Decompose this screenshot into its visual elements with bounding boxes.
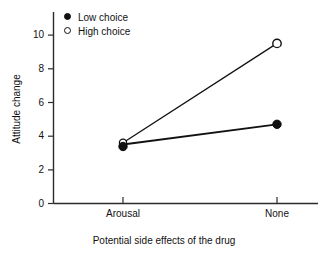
attitude-change-line-chart: 0 2 4 6 8 10 Arousal None Attitude chang… xyxy=(0,0,328,257)
y-tick-label-10: 10 xyxy=(18,30,44,40)
x-axis-ticks xyxy=(123,197,277,204)
filled-circle-icon xyxy=(62,11,74,23)
legend-item-high-choice: High choice xyxy=(62,24,130,38)
y-axis-ticks xyxy=(48,35,54,203)
y-tick-label-0: 0 xyxy=(18,199,44,209)
data-point-low-choice-arousal xyxy=(119,142,127,150)
open-circle-icon xyxy=(62,25,74,37)
x-tick-label-none: None xyxy=(242,209,312,219)
data-point-low-choice-none xyxy=(273,120,281,128)
x-axis-title: Potential side effects of the drug xyxy=(0,236,328,246)
legend-label-low-choice: Low choice xyxy=(78,12,128,23)
legend-label-high-choice: High choice xyxy=(78,26,130,37)
x-tick-label-arousal: Arousal xyxy=(88,209,158,219)
y-tick-label-2: 2 xyxy=(18,165,44,175)
legend: Low choice High choice xyxy=(62,10,130,38)
legend-item-low-choice: Low choice xyxy=(62,10,130,24)
y-axis-title: Attitude change xyxy=(12,59,22,159)
data-point-high-choice-none xyxy=(273,39,281,47)
